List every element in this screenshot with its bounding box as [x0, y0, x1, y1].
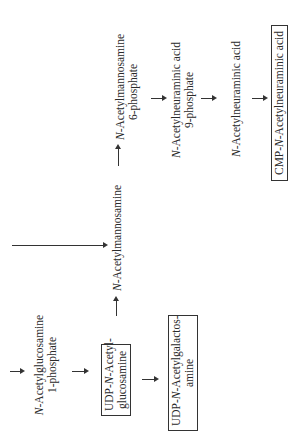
node-glcnac-1-phosphate: N-Acetylglucosamine 1-phosphate — [33, 306, 59, 424]
arrowhead-udp-glcnac-to-udp-galnac — [154, 376, 159, 382]
arrowhead-neuac-to-cmp-neuac — [263, 95, 268, 101]
arrow-mannac-to-mannac-6p — [118, 148, 119, 166]
node-mannac: N-Acetylmannosamine — [111, 178, 124, 298]
node-udp-glcnac: UDP-N-Acetyl- glucosamine — [101, 344, 131, 416]
node-neuac: N-Acetylneuraminic acid — [230, 40, 243, 158]
sialic-acid-pathway-diagram: N-Acetylglucosamine 1-phosphate UDP-N-Ac… — [0, 0, 296, 444]
arrowhead-neuac-9p-to-neuac — [212, 95, 217, 101]
node-cmp-neuac: CMP-N-Acetylneuraminic acid — [271, 25, 288, 181]
arrowhead-mannac-to-mannac-6p — [115, 144, 121, 149]
arrowhead-input-to-glcnac-1p — [20, 368, 25, 374]
node-udp-galnac: UDP-N-Acetylgalactos- amine — [168, 315, 198, 431]
arrowhead-long-input-to-mannac — [103, 242, 108, 248]
arrow-long-input-to-mannac — [12, 245, 104, 246]
node-mannac-6-phosphate: N-Acetylmannosamine 6-phosphate — [114, 44, 140, 140]
node-neuac-9-phosphate: N-Acetylneuraminic acid 9-phosphate — [170, 40, 196, 160]
arrow-udp-glcnac-to-mannac — [116, 300, 117, 316]
arrowhead-glcnac-1p-to-udp-glcnac — [84, 368, 89, 374]
arrowhead-mannac-6p-to-neuac-9p — [162, 95, 167, 101]
arrow-glcnac-1p-to-udp-glcnac — [72, 371, 84, 372]
arrow-udp-glcnac-to-udp-galnac — [142, 379, 154, 380]
